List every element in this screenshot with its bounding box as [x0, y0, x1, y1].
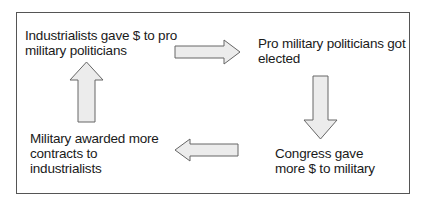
arrow-left-icon [175, 139, 238, 161]
arrow-down-icon [304, 76, 337, 139]
arrow-up-icon [70, 62, 103, 122]
arrows-layer [0, 0, 428, 212]
arrow-right-icon [175, 40, 240, 64]
